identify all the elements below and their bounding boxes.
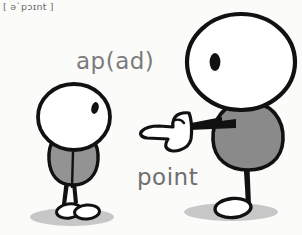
large-figure-body — [213, 102, 283, 170]
large-figure-head — [187, 14, 295, 110]
illustration-artwork — [0, 0, 302, 235]
small-figure — [38, 84, 110, 220]
small-figure-head — [38, 84, 110, 150]
word-gloss: ap(ad) — [76, 50, 154, 73]
small-figure-body-crease — [72, 152, 73, 188]
small-figure-foot — [74, 204, 100, 220]
large-figure-eye — [210, 53, 221, 71]
illustration-scene: [ ə`pɔɪnt ] ap(ad) point — [0, 0, 302, 235]
phonetic-transcription: [ ə`pɔɪnt ] — [3, 2, 54, 12]
pointing-hand-icon — [141, 113, 192, 151]
word-label: point — [137, 166, 198, 189]
